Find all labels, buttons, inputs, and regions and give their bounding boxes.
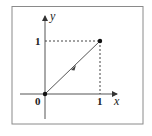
diagonal-segment — [45, 41, 100, 94]
frame-border — [12, 7, 143, 125]
unit-point — [98, 39, 102, 43]
x-axis-label: x — [113, 94, 120, 108]
origin-point — [43, 92, 47, 96]
diagram-canvas: y x 1 1 0 — [0, 0, 152, 136]
x-tick-one: 1 — [97, 95, 103, 107]
origin-label: 0 — [35, 95, 41, 107]
y-tick-one: 1 — [35, 35, 41, 47]
y-axis-label: y — [49, 9, 56, 23]
